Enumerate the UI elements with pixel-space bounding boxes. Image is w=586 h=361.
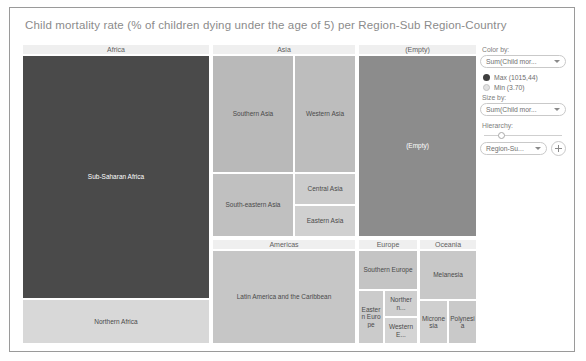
- treemap-tile[interactable]: Eastern Asia: [294, 205, 356, 237]
- treemap-tile[interactable]: Micronesia: [419, 300, 448, 344]
- treemap-tile-label: Micronesia: [420, 315, 447, 330]
- treemap-tile[interactable]: (Empty): [358, 55, 477, 237]
- chevron-down-icon: [535, 147, 541, 150]
- treemap-group-header[interactable]: (Empty): [358, 44, 477, 55]
- color-by-label: Color by:: [482, 46, 566, 53]
- legend-min-swatch: [483, 84, 490, 91]
- treemap-tile[interactable]: Southern Europe: [358, 250, 418, 290]
- treemap-tile-label: Eastern Asia: [306, 217, 345, 225]
- treemap-tile-label: Western Asia: [305, 110, 345, 118]
- legend-max-row: Max (1015,44): [483, 74, 566, 81]
- treemap-tile-label: Sub-Saharan Africa: [87, 173, 145, 181]
- treemap-tile-label: Southern Asia: [232, 110, 274, 118]
- treemap-group-body: (Empty): [358, 55, 477, 237]
- treemap-group[interactable]: EuropeSouthern EuropeEastern EuropeNorth…: [358, 239, 418, 344]
- legend-max-swatch: [483, 74, 490, 81]
- chevron-down-icon: [554, 60, 560, 63]
- treemap-group-header[interactable]: Europe: [358, 239, 418, 250]
- legend-max-label: Max (1015,44): [494, 74, 538, 81]
- treemap-group[interactable]: AfricaSub-Saharan AfricaNorthern Africa: [22, 44, 210, 344]
- chevron-down-icon: [554, 108, 560, 111]
- treemap-tile[interactable]: Western Asia: [294, 55, 356, 173]
- page-title: Child mortality rate (% of children dyin…: [10, 8, 574, 44]
- treemap-group-header[interactable]: Americas: [212, 239, 356, 250]
- treemap-group[interactable]: AmericasLatin America and the Caribbean: [212, 239, 356, 344]
- treemap-tile-label: Western E...: [385, 323, 417, 338]
- treemap-tile-label: (Empty): [405, 142, 430, 150]
- treemap-tile-label: Polynesia: [449, 315, 476, 330]
- treemap-tile[interactable]: Central Asia: [294, 173, 356, 205]
- treemap-group-header[interactable]: Oceania: [419, 239, 477, 250]
- hierarchy-slider[interactable]: [484, 131, 562, 140]
- treemap-tile[interactable]: Northern...: [384, 290, 418, 317]
- color-by-select[interactable]: Sum(Child mor...: [480, 55, 566, 68]
- size-by-label: Size by:: [482, 94, 566, 101]
- treemap-tile-label: Latin America and the Caribbean: [236, 293, 333, 301]
- legend-min-row: Min (3.70): [483, 84, 566, 91]
- treemap-tile-label: Northern Africa: [93, 318, 138, 326]
- color-by-value: Sum(Child mor...: [486, 58, 537, 65]
- treemap-app-window: Child mortality rate (% of children dyin…: [9, 7, 575, 352]
- treemap-tile[interactable]: Eastern Europe: [358, 290, 384, 344]
- treemap-tile[interactable]: Western E...: [384, 317, 418, 344]
- treemap-tile[interactable]: Sub-Saharan Africa: [22, 55, 210, 299]
- treemap-tile-label: Eastern Europe: [359, 306, 383, 329]
- treemap-group-body: Latin America and the Caribbean: [212, 250, 356, 344]
- treemap-group-body: Southern AsiaWestern AsiaSouth-eastern A…: [212, 55, 356, 237]
- treemap-tile-label: Melanesia: [432, 271, 464, 279]
- treemap-tile-label: Northern...: [385, 296, 417, 311]
- treemap-tile-label: Southern Europe: [362, 266, 413, 274]
- hierarchy-value: Region-Su...: [486, 145, 524, 152]
- treemap-group-body: MelanesiaMicronesiaPolynesia: [419, 250, 477, 344]
- treemap-group[interactable]: AsiaSouthern AsiaWestern AsiaSouth-easte…: [212, 44, 356, 237]
- hierarchy-slider-thumb[interactable]: [498, 132, 505, 139]
- treemap-tile[interactable]: Latin America and the Caribbean: [212, 250, 356, 344]
- hierarchy-label: Hierarchy:: [482, 122, 566, 129]
- hierarchy-select[interactable]: Region-Su...: [480, 142, 547, 155]
- treemap-tile[interactable]: Polynesia: [448, 300, 477, 344]
- control-panel: Color by: Sum(Child mor... Max (1015,44)…: [480, 46, 566, 171]
- treemap-tile-label: South-eastern Asia: [225, 201, 282, 209]
- add-hierarchy-level-button[interactable]: [551, 141, 566, 156]
- treemap-group-body: Sub-Saharan AfricaNorthern Africa: [22, 55, 210, 344]
- treemap-group-body: Southern EuropeEastern EuropeNorthern...…: [358, 250, 418, 344]
- treemap-group[interactable]: (Empty)(Empty): [358, 44, 477, 237]
- legend-min-label: Min (3.70): [494, 84, 525, 91]
- treemap-tile[interactable]: Northern Africa: [22, 299, 210, 344]
- size-by-value: Sum(Child mor...: [486, 106, 537, 113]
- treemap-tile[interactable]: Melanesia: [419, 250, 477, 300]
- size-by-select[interactable]: Sum(Child mor...: [480, 103, 566, 116]
- treemap-group-header[interactable]: Asia: [212, 44, 356, 55]
- treemap-tile-label: Central Asia: [306, 185, 343, 193]
- treemap-group-header[interactable]: Africa: [22, 44, 210, 55]
- treemap-tile[interactable]: Southern Asia: [212, 55, 294, 173]
- treemap-chart[interactable]: AfricaSub-Saharan AfricaNorthern AfricaA…: [22, 44, 477, 344]
- hierarchy-row: Region-Su...: [480, 141, 566, 156]
- hierarchy-slider-track: [484, 135, 562, 136]
- treemap-group[interactable]: OceaniaMelanesiaMicronesiaPolynesia: [419, 239, 477, 344]
- treemap-tile[interactable]: South-eastern Asia: [212, 173, 294, 237]
